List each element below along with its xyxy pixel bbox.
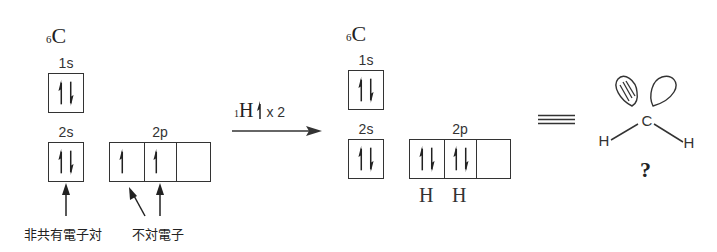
molecule-carbon: C <box>639 113 655 128</box>
right-2p-box-1 <box>409 139 445 179</box>
left-2p-box-2 <box>144 142 178 182</box>
annotation-arrows <box>0 180 220 220</box>
bond-right-icon <box>654 124 683 142</box>
left-2s-label: 2s <box>48 125 84 139</box>
right-2s-label: 2s <box>348 122 384 136</box>
empty-p-orbital-lobe-icon <box>651 76 676 106</box>
unpaired-electron-label: 不対電子 <box>132 228 184 241</box>
right-1s-box <box>348 70 384 110</box>
molecule-hydrogen-left: H <box>597 133 611 148</box>
electron-up-icon <box>145 143 177 181</box>
electron-pair-icon <box>49 143 83 181</box>
lone-pair-arrow-icon <box>62 183 70 216</box>
lone-pair-label: 非共有電子対 <box>24 228 102 241</box>
bond-label-h-2: H <box>452 185 466 205</box>
right-2s-box <box>348 139 384 179</box>
left-2p-box-1 <box>109 142 145 182</box>
left-carbon-symbol: 6C <box>46 25 66 47</box>
equivalence-icon <box>536 113 578 127</box>
unpaired-arrow-right-icon <box>156 183 164 216</box>
lone-pair-orbital-lobe-icon <box>616 76 637 106</box>
electron-pair-icon <box>349 71 383 109</box>
left-2s-box <box>48 142 84 182</box>
right-carbon-symbol: 6C <box>346 23 366 45</box>
reagent-symbol: H <box>239 99 253 121</box>
unpaired-arrow-left-icon <box>129 187 145 216</box>
bond-label-h-1: H <box>419 185 433 205</box>
right-atomic-number: 6 <box>346 31 352 43</box>
left-2p-label: 2p <box>109 125 211 139</box>
reagent-atomic-number: 1 <box>234 108 239 119</box>
reaction-arrow-icon <box>230 124 325 138</box>
right-2p-box-3 <box>476 139 511 179</box>
electron-pair-icon <box>49 74 83 112</box>
bond-left-icon <box>611 124 638 140</box>
reagent-multiplier: x 2 <box>266 104 285 120</box>
electron-up-icon <box>110 143 144 181</box>
right-2p-box-2 <box>444 139 478 179</box>
reagent-label: 1Hx 2 <box>234 100 285 121</box>
electron-pair-icon <box>410 140 444 178</box>
left-2p-box-3 <box>176 142 211 182</box>
right-2p-label: 2p <box>409 122 511 136</box>
question-mark: ? <box>640 159 651 181</box>
right-1s-label: 1s <box>348 53 384 67</box>
electron-pair-icon <box>445 140 477 178</box>
left-atomic-number: 6 <box>46 33 52 45</box>
left-1s-box <box>48 73 84 113</box>
electron-up-icon <box>256 100 264 120</box>
electron-pair-icon <box>349 140 383 178</box>
molecule-hydrogen-right: H <box>682 135 696 150</box>
left-1s-label: 1s <box>48 56 84 70</box>
